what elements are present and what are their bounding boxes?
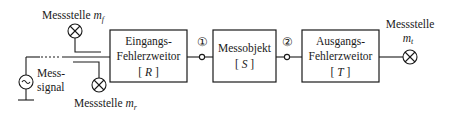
ac-source-icon	[19, 75, 33, 89]
source-label-line1: Mess-	[37, 67, 65, 79]
vna-error-model-diagram: Messstelle mf Mess- signal Messstelle mr…	[0, 0, 454, 116]
meter-mt-icon	[403, 50, 417, 64]
port-2-terminal-icon	[284, 54, 289, 59]
measurement-point-mt-label: Messstelle	[386, 18, 435, 30]
coupler-forward-line	[75, 38, 101, 52]
measurement-point-mt-symbol: mt	[403, 32, 414, 46]
port-2-label: ②	[282, 36, 293, 48]
block-R-line2: Fehlerzweitor	[117, 50, 181, 62]
meter-mf-icon	[68, 24, 82, 38]
block-T-matrix: [ T ]	[331, 66, 351, 78]
block-R-line1: Eingangs-	[125, 35, 172, 48]
measurement-point-mr-label: Messstelle mr	[74, 97, 138, 112]
port-1-label: ①	[197, 36, 208, 48]
measurement-point-mf-label: Messstelle mf	[42, 9, 106, 24]
block-S-line1: Messobjekt	[218, 42, 272, 55]
source-label-line2: signal	[37, 81, 64, 94]
block-S-matrix: [ S ]	[235, 58, 254, 70]
block-T-line1: Ausgangs-	[316, 35, 365, 48]
block-dut	[213, 30, 276, 82]
port-1-terminal-icon	[199, 54, 204, 59]
coupler-reflected-line	[73, 62, 99, 78]
block-T-line2: Fehlerzweitor	[309, 50, 373, 62]
block-R-matrix: [ R ]	[138, 66, 158, 78]
meter-mr-icon	[92, 78, 106, 92]
